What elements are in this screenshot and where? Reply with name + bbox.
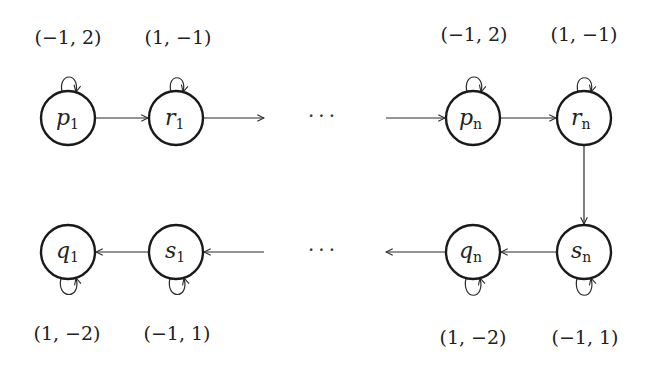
node-subscript: n <box>473 116 482 132</box>
weight-label-q1: (1, −2) <box>33 322 100 344</box>
self-loop-pn <box>466 77 481 92</box>
self-loop-sn <box>576 278 592 295</box>
weight-label-r1: (1, −1) <box>144 26 211 48</box>
node-p1: p1 <box>41 91 95 145</box>
node-qn: qn <box>446 225 500 279</box>
self-loop-q1 <box>60 278 77 295</box>
node-label: q <box>56 238 70 263</box>
self-loop-s1 <box>169 278 185 295</box>
weight-label-sn: (−1, 1) <box>551 326 618 348</box>
weight-label-rn: (1, −1) <box>550 23 617 45</box>
node-subscript: n <box>582 249 591 265</box>
weight-label-pn: (−1, 2) <box>440 23 507 45</box>
node-label: q <box>459 238 473 263</box>
weight-label-s1: (−1, 1) <box>143 322 210 344</box>
node-label: s <box>571 238 582 263</box>
node-subscript: 1 <box>176 249 185 265</box>
node-label: s <box>165 238 176 263</box>
weight-label-p1: (−1, 2) <box>34 26 101 48</box>
ellipsis-bottom: ··· <box>308 238 339 262</box>
node-label: p <box>459 105 473 130</box>
game-graph-diagram: ··· ··· p1 r1 pn rn q1 s1 qn sn (−1, <box>0 0 653 371</box>
node-subscript: n <box>473 249 482 265</box>
node-subscript: 1 <box>70 116 79 132</box>
node-r1: r1 <box>149 91 203 145</box>
node-sn: sn <box>557 225 611 279</box>
node-rn: rn <box>557 91 611 145</box>
node-q1: q1 <box>41 225 95 279</box>
node-subscript: n <box>582 116 591 132</box>
self-loop-p1 <box>62 77 77 92</box>
node-pn: pn <box>446 91 500 145</box>
node-s1: s1 <box>149 225 203 279</box>
node-label: p <box>56 105 70 130</box>
node-subscript: 1 <box>176 116 185 132</box>
node-subscript: 1 <box>70 249 79 265</box>
ellipsis-top: ··· <box>308 104 339 128</box>
weight-label-qn: (1, −2) <box>439 326 506 348</box>
self-loop-qn <box>465 278 481 295</box>
